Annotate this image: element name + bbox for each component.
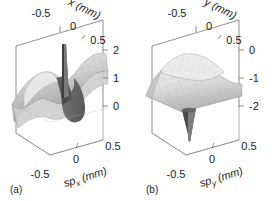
z-tick-label-a-1: 1	[113, 72, 119, 84]
x-axis-a: -0.5 0 0.5 x (mm)	[32, 0, 106, 46]
x-axis-title-a: x (mm)	[66, 0, 103, 21]
y-tick-label-a-1: 0	[73, 153, 79, 165]
surface-plot-a	[12, 44, 108, 128]
x-tick-label-a-1: 0	[70, 20, 76, 32]
z-tick-label-a-2: 0	[113, 100, 119, 112]
x-axis-b: -0.5 0 0.5 y (mm)	[168, 0, 242, 46]
z-tick-label-a-0: 2	[113, 44, 119, 56]
y-tick-label-a-0: -0.5	[31, 168, 50, 180]
x-tick-label-a-2: 0.5	[90, 34, 105, 46]
z-tick-label-b-0: 0	[249, 44, 255, 56]
y-tick-label-a-2: 0.5	[105, 140, 120, 152]
surface-plot-b	[146, 54, 242, 142]
panel-b: -0.5 0 0.5 y (mm) 0 -1 -2 -0.5 0 0.5	[138, 0, 275, 201]
y-axis-title-a: spx (mm)	[62, 164, 109, 191]
z-tick-label-b-2: -2	[249, 100, 259, 112]
y-tick-label-b-0: -0.5	[167, 168, 186, 180]
z-axis-b: 0 -1 -2	[239, 44, 259, 112]
axes-box-front-b	[152, 107, 239, 155]
y-tick-label-b-2: 0.5	[241, 140, 256, 152]
panel-a: -0.5 0 0.5 x (mm) 2 1 0 -0.5 0 0.5	[0, 0, 137, 201]
z-tick-label-b-1: -1	[249, 72, 259, 84]
y-axis-title-a-units: (mm)	[77, 164, 108, 184]
x-tick-label-b-1: 0	[206, 20, 212, 32]
x-tick-label-a-0: -0.5	[32, 7, 51, 19]
x-axis-title-b: y (mm)	[202, 0, 239, 21]
x-tick-label-b-0: -0.5	[168, 7, 187, 19]
y-axis-title-b-units: (mm)	[213, 164, 244, 184]
figure-container: -0.5 0 0.5 x (mm) 2 1 0 -0.5 0 0.5	[0, 0, 275, 201]
y-tick-label-b-1: 0	[209, 153, 215, 165]
x-tick-label-b-2: 0.5	[226, 34, 241, 46]
panel-tag-a: (a)	[10, 184, 22, 195]
panel-tag-b: (b)	[146, 184, 158, 195]
y-axis-title-b: spy (mm)	[198, 164, 245, 191]
